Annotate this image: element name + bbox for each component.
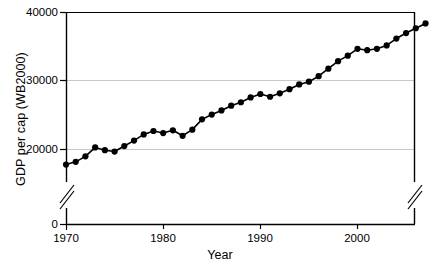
y-tick-label-0: 0 <box>10 218 58 230</box>
data-point <box>82 153 88 159</box>
data-point <box>306 79 312 85</box>
plot-area <box>0 0 440 267</box>
data-point <box>422 20 428 26</box>
data-point <box>316 73 322 79</box>
data-point <box>150 128 156 134</box>
y-tick-label-20000: 20000 <box>10 143 58 155</box>
data-point <box>354 46 360 52</box>
data-point <box>413 25 419 31</box>
data-point <box>141 131 147 137</box>
data-point <box>189 127 195 133</box>
data-point <box>218 107 224 113</box>
data-point <box>160 130 166 136</box>
data-point <box>286 86 292 92</box>
y-tick-label-40000: 40000 <box>10 6 58 18</box>
data-point <box>374 46 380 52</box>
data-point <box>248 94 254 100</box>
data-point <box>73 159 79 165</box>
data-point <box>277 90 283 96</box>
data-point <box>92 144 98 150</box>
data-point <box>393 35 399 41</box>
data-point <box>63 161 69 167</box>
data-point <box>267 94 273 100</box>
axes <box>66 12 415 225</box>
data-point <box>325 66 331 72</box>
gridlines <box>66 81 415 150</box>
x-tick-label-1990: 1990 <box>236 232 284 244</box>
data-point <box>180 133 186 139</box>
data-point <box>111 148 117 154</box>
y-axis-title: GDP per cap (WB2000) <box>14 24 28 214</box>
axis-break-left-icon <box>60 182 74 209</box>
chart-container: GDP per cap (WB2000) Year 40000 30000 20… <box>0 0 440 267</box>
data-point <box>403 30 409 36</box>
data-point <box>345 53 351 59</box>
data-point <box>102 147 108 153</box>
data-series-markers <box>63 20 429 167</box>
data-point <box>121 143 127 149</box>
axis-break-right-icon <box>408 182 422 209</box>
data-point <box>228 103 234 109</box>
data-point <box>170 127 176 133</box>
x-tick-label-1980: 1980 <box>139 232 187 244</box>
data-point <box>364 47 370 53</box>
data-point <box>257 91 263 97</box>
data-point <box>131 137 137 143</box>
data-point <box>209 111 215 117</box>
y-tick-label-30000: 30000 <box>10 74 58 86</box>
x-tick-label-1970: 1970 <box>42 232 90 244</box>
x-axis-title: Year <box>0 248 440 262</box>
data-point <box>296 81 302 87</box>
data-point <box>384 42 390 48</box>
x-tick-label-2000: 2000 <box>333 232 381 244</box>
data-point <box>199 116 205 122</box>
data-series-line <box>66 23 426 164</box>
data-point <box>335 58 341 64</box>
data-point <box>238 99 244 105</box>
